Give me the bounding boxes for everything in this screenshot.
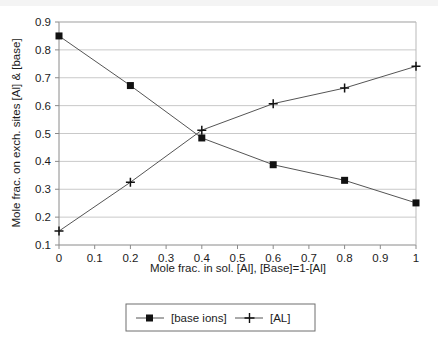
- data-point-square-marker: [56, 32, 63, 39]
- y-tick-label: 0.3: [35, 183, 51, 195]
- y-tick-labels: 0.10.20.30.40.50.60.70.80.9: [35, 16, 52, 251]
- line-chart: 00.10.20.30.40.50.60.70.80.91 0.10.20.30…: [0, 0, 438, 347]
- y-axis-ticks: [55, 22, 59, 245]
- data-point-square-marker: [341, 177, 348, 184]
- y-tick-label: 0.5: [35, 128, 51, 140]
- image-top-border: [0, 0, 438, 6]
- y-tick-label: 0.7: [35, 72, 51, 84]
- y-tick-label: 0.6: [35, 100, 51, 112]
- y-tick-label: 0.9: [35, 16, 51, 28]
- square-marker-icon: [146, 315, 153, 322]
- y-tick-label: 0.4: [35, 155, 52, 167]
- y-tick-label: 0.1: [35, 239, 51, 251]
- y-tick-label: 0.8: [35, 44, 51, 56]
- x-tick-label: 0.1: [87, 252, 103, 264]
- x-tick-label: 1: [413, 252, 419, 264]
- x-tick-label: 0: [56, 252, 62, 264]
- x-tick-label: 0.2: [122, 252, 138, 264]
- data-point-square-marker: [270, 161, 277, 168]
- chart-legend: [base ions] [AL]: [126, 304, 315, 331]
- legend-label-base-ions: [base ions]: [171, 312, 227, 324]
- data-point-square-marker: [413, 199, 420, 206]
- x-tick-label: 0.8: [337, 252, 353, 264]
- legend-label-al: [AL]: [270, 312, 290, 324]
- x-axis-title: Mole frac. in sol. [Al], [Base]=1-[Al]: [150, 262, 326, 274]
- x-tick-label: 0.9: [372, 252, 388, 264]
- x-axis-ticks: [59, 245, 416, 249]
- data-point-square-marker: [198, 134, 205, 141]
- y-axis-title: Mole frac. on exch. sites [Al] & [base]: [10, 38, 22, 227]
- y-tick-label: 0.2: [35, 211, 51, 223]
- data-point-square-marker: [127, 82, 134, 89]
- chart-figure: 00.10.20.30.40.50.60.70.80.91 0.10.20.30…: [0, 0, 438, 347]
